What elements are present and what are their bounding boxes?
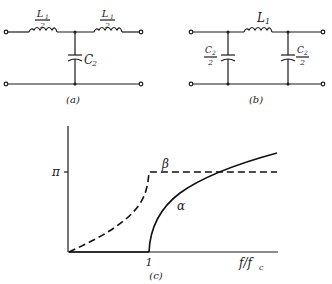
svg-text:1: 1 (265, 17, 270, 26)
figure-canvas: L 1 2 L 1 2 C 2 (a) L 1 (0, 0, 332, 284)
terminal-icon (189, 30, 193, 34)
inductor-label: L (101, 8, 109, 19)
svg-text:2: 2 (303, 49, 308, 56)
alpha-label: α (177, 199, 185, 213)
svg-text:1: 1 (45, 13, 49, 20)
svg-text:2: 2 (104, 21, 110, 30)
terminal-icon (321, 82, 325, 86)
svg-text:2: 2 (211, 49, 216, 56)
circuit-a-t-section: L 1 2 L 1 2 C 2 (a) (4, 8, 143, 105)
caption-a: (a) (66, 94, 80, 105)
capacitor-label: C (297, 45, 304, 55)
x-tick-1: 1 (146, 256, 153, 269)
terminal-icon (189, 82, 193, 86)
terminal-icon (139, 82, 143, 86)
svg-text:1: 1 (110, 13, 114, 20)
terminal-icon (321, 30, 325, 34)
svg-text:2: 2 (299, 58, 305, 67)
caption-b: (b) (249, 94, 263, 105)
circuit-b-pi-section: L 1 C 2 2 C 2 2 (b) (189, 11, 325, 105)
inductor-label: L (36, 8, 44, 19)
svg-text:c: c (259, 263, 264, 272)
svg-text:2: 2 (91, 59, 97, 68)
terminal-icon (4, 82, 8, 86)
y-tick-pi: π (51, 165, 61, 179)
terminal-icon (139, 30, 143, 34)
terminal-icon (4, 30, 8, 34)
inductor-icon (244, 28, 272, 33)
svg-text:2: 2 (207, 58, 213, 67)
caption-c: (c) (149, 270, 163, 281)
svg-text:2: 2 (39, 21, 45, 30)
capacitor-label: C (205, 45, 212, 55)
x-axis-label: f/f (238, 256, 254, 270)
inductor-label: L (256, 11, 265, 25)
graph-c-attenuation-phase: π β α 1 f/f c (c) (51, 126, 278, 281)
beta-label: β (161, 157, 169, 171)
beta-curve (69, 172, 277, 252)
